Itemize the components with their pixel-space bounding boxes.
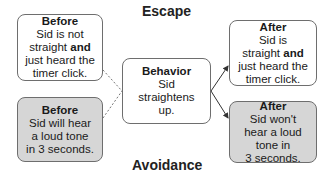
box-title: After (260, 21, 287, 34)
dashed-connector-avoidance (103, 91, 122, 118)
box-text: tone in (256, 139, 291, 152)
box-text: timer click. (33, 67, 87, 80)
box-text: just heard the (238, 60, 308, 73)
box-text: straightens (138, 91, 194, 104)
box-title: Behavior (142, 65, 191, 78)
box-text: up. (159, 104, 175, 117)
box-text: straight and (29, 41, 90, 54)
box-text: timer click. (246, 73, 300, 86)
avoidance-label: Avoidance (132, 157, 202, 173)
after-escape-box: After Sid is straight and just heard the… (229, 20, 317, 86)
box-text: in 3 seconds. (26, 143, 94, 156)
box-text: hear a loud (244, 126, 302, 139)
arrow-to-after-avoidance (211, 91, 228, 118)
box-title: Before (42, 104, 78, 117)
escape-label: Escape (142, 3, 191, 19)
box-text: Sid is not (36, 28, 83, 41)
arrow-to-after-escape (211, 66, 228, 91)
box-text: Sid will hear (29, 117, 91, 130)
box-text: just heard the (25, 54, 95, 67)
box-text: straight and (242, 47, 303, 60)
behavior-box: Behavior Sid straightens up. (122, 58, 211, 124)
box-text: Sid won't (250, 113, 296, 126)
before-escape-box: Before Sid is not straight and just hear… (17, 14, 103, 81)
box-text: Sid is (259, 34, 287, 47)
box-text: 3 seconds. (245, 152, 301, 165)
box-title: After (260, 100, 287, 113)
box-text: a loud tone (32, 130, 89, 143)
before-avoidance-box: Before Sid will hear a loud tone in 3 se… (17, 97, 103, 162)
box-title: Before (42, 15, 78, 28)
dashed-connector-escape (103, 70, 122, 91)
box-text: Sid (158, 78, 175, 91)
after-avoidance-box: After Sid won't hear a loud tone in 3 se… (229, 101, 317, 163)
